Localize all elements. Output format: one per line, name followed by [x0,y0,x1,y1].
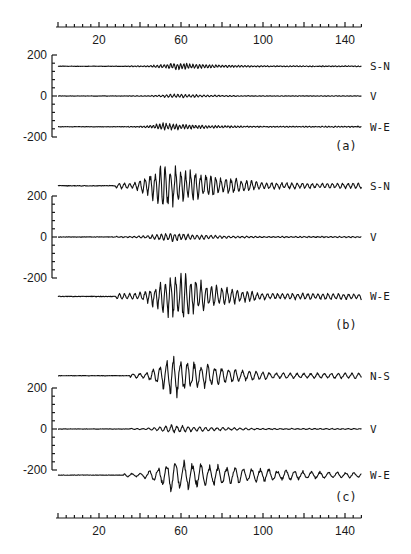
x-tick-label: 100 [253,524,273,538]
panel-c: 2000-200N-SVW-E(c) [23,356,390,504]
panel-label: (c) [335,490,357,504]
trace-label: V [370,90,377,103]
y-tick-label: -200 [23,271,47,285]
trace-label: W-E [370,469,390,482]
top-x-axis: 2060100140 [56,22,361,47]
y-tick-label: 0 [40,89,47,103]
y-tick-label: 0 [40,230,47,244]
panels: 2000-200S-NVW-E(a)2000-200S-NVW-E(b)2000… [23,48,390,504]
trace-label: S-N [370,180,390,193]
x-tick-label: 60 [174,524,188,538]
trace-n-s [58,356,361,397]
x-tick-label: 100 [253,33,273,47]
panel-b: 2000-200S-NVW-E(b) [23,166,390,332]
x-tick-label: 140 [335,524,355,538]
x-tick-label: 20 [92,524,106,538]
panel-label: (b) [335,318,357,332]
x-tick-label: 60 [174,33,188,47]
panel-a: 2000-200S-NVW-E(a) [23,48,390,153]
x-tick-label: 140 [335,33,355,47]
y-tick-label: 0 [40,422,47,436]
trace-label: V [370,423,377,436]
seismogram-figure: 2060100140 2000-200S-NVW-E(a)2000-200S-N… [0,0,411,554]
trace-w-e [58,460,361,492]
trace-label: W-E [370,290,390,303]
y-tick-label: -200 [23,130,47,144]
trace-v [58,234,361,242]
y-tick-label: 200 [27,189,47,203]
bottom-x-axis: 2060100140 [56,513,361,538]
trace-v [58,94,361,98]
trace-v [58,425,361,433]
trace-s-n [58,63,361,69]
trace-s-n [58,166,361,207]
trace-label: V [370,231,377,244]
x-tick-label: 20 [92,33,106,47]
trace-w-e [58,123,361,130]
y-tick-label: 200 [27,381,47,395]
y-tick-label: 200 [27,48,47,62]
trace-label: S-N [370,60,390,73]
panel-label: (a) [335,139,357,153]
trace-label: W-E [370,121,390,134]
trace-label: N-S [370,370,390,383]
trace-w-e [58,273,361,317]
y-tick-label: -200 [23,463,47,477]
